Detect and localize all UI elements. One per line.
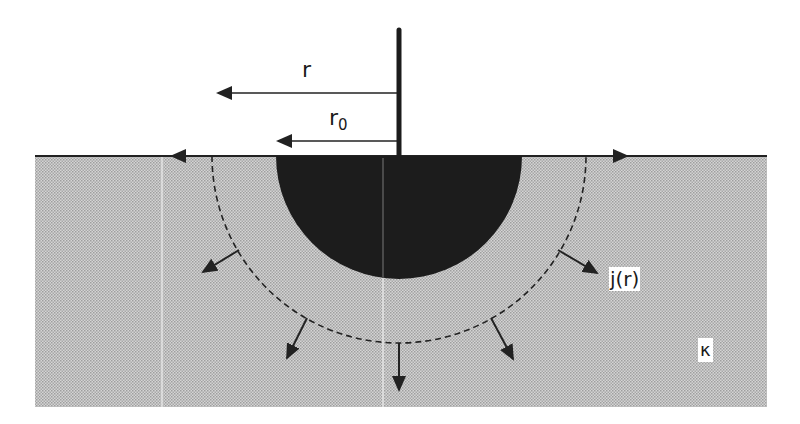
diagram-canvas — [0, 0, 800, 424]
label-r: r — [302, 59, 311, 81]
label-current-density: j(r) — [609, 267, 640, 291]
label-r0-subscript: 0 — [338, 116, 348, 134]
label-conductivity-kappa: κ — [698, 338, 713, 362]
label-r0: r0 — [329, 107, 348, 133]
label-r0-base: r — [329, 105, 338, 130]
